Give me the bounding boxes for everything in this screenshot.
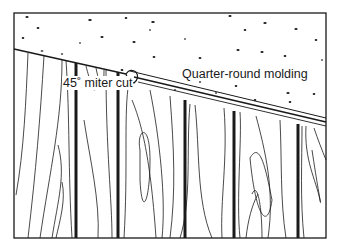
illustration [0, 0, 342, 250]
frame-border [14, 13, 326, 238]
ceiling-wall-line [14, 49, 126, 74]
miter-cut-label: 45˚ miter cut [62, 76, 133, 90]
quarter-round-molding-label: Quarter-round molding [181, 67, 309, 81]
